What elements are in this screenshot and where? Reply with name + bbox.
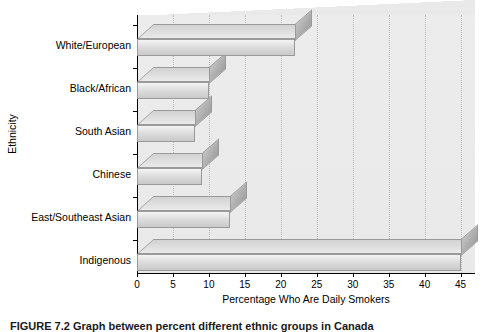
bar-front-face — [137, 168, 202, 185]
gridline — [317, 15, 318, 273]
x-tick — [137, 273, 138, 277]
x-tick-label: 5 — [158, 279, 188, 290]
x-tick — [353, 273, 354, 277]
x-tick — [209, 273, 210, 277]
x-tick-label: 25 — [302, 279, 332, 290]
x-tick — [389, 273, 390, 277]
bar-indigenous — [137, 254, 461, 271]
bar-front-face — [137, 254, 461, 271]
x-tick — [173, 273, 174, 277]
gridline — [461, 15, 462, 273]
bar-chinese — [137, 168, 202, 185]
bar-front-face — [137, 125, 195, 142]
gridline — [425, 15, 426, 273]
bar-east-southeast-asian — [137, 211, 230, 228]
x-tick-label: 10 — [194, 279, 224, 290]
y-axis-label-wrapper: Ethnicity — [0, 0, 137, 332]
plot-area — [137, 15, 475, 273]
bar-top-face — [137, 24, 312, 39]
x-tick — [317, 273, 318, 277]
x-tick-label: 15 — [230, 279, 260, 290]
bar-front-face — [137, 39, 295, 56]
x-axis-label: Percentage Who Are Daily Smokers — [137, 293, 475, 305]
bar-black-african — [137, 82, 209, 99]
bar-south-asian — [137, 125, 195, 142]
bar-side-face — [209, 52, 226, 84]
bar-side-face — [461, 224, 478, 256]
x-tick — [245, 273, 246, 277]
bar-front-face — [137, 82, 209, 99]
x-tick — [425, 273, 426, 277]
y-axis-label: Ethnicity — [6, 94, 18, 174]
bar-top-face — [137, 239, 477, 254]
bar-white-european — [137, 39, 295, 56]
figure-caption: FIGURE 7.2 Graph between percent differe… — [10, 320, 492, 332]
x-tick — [461, 273, 462, 277]
x-tick-label: 20 — [266, 279, 296, 290]
x-tick-label: 40 — [410, 279, 440, 290]
x-tick-label: 45 — [446, 279, 476, 290]
x-tick-label: 30 — [338, 279, 368, 290]
x-tick — [281, 273, 282, 277]
x-tick-label: 35 — [374, 279, 404, 290]
bar-side-face — [202, 138, 219, 170]
bar-front-face — [137, 211, 230, 228]
gridline — [389, 15, 390, 273]
gridline — [353, 15, 354, 273]
figure-container: 051015202530354045 White/EuropeanBlack/A… — [0, 0, 492, 332]
